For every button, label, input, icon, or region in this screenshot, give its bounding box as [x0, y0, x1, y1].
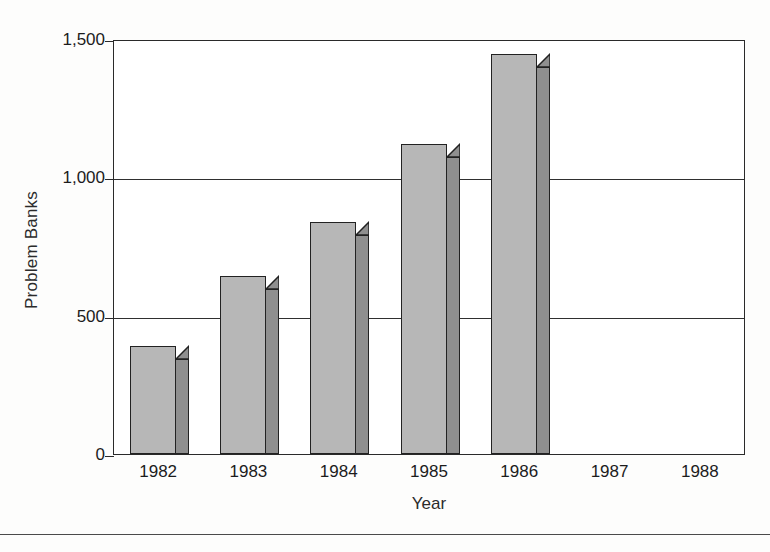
bar-side-face-1983: [266, 289, 279, 454]
bar-1985: [401, 144, 460, 454]
bar-top-face-1983: [266, 275, 279, 290]
bar-top-face-1985: [447, 143, 460, 158]
x-axis-title: Year: [113, 494, 745, 514]
x-tick-label-1986: 1986: [500, 462, 538, 482]
bar-1983: [220, 276, 279, 454]
y-axis-tick-labels: 0 500 1,000 1,500: [33, 0, 105, 552]
x-axis-tick-labels: 1982198319841985198619871988: [113, 462, 745, 488]
y-tickmark-1500: [105, 41, 114, 42]
x-tick-label-1983: 1983: [230, 462, 268, 482]
bar-1984: [310, 222, 369, 454]
bar-front-face-1986: [491, 54, 537, 454]
bar-side-face-1986: [537, 67, 550, 454]
x-tick-label-1987: 1987: [591, 462, 629, 482]
x-tick-label-1985: 1985: [410, 462, 448, 482]
bar-top-face-1986: [537, 53, 550, 68]
bar-front-face-1982: [130, 346, 176, 454]
x-tick-label-1984: 1984: [320, 462, 358, 482]
footer-rule: [0, 534, 770, 535]
bar-front-face-1983: [220, 276, 266, 454]
bar-front-face-1984: [310, 222, 356, 454]
y-tickmark-500: [105, 318, 114, 319]
y-tick-label-1000: 1,000: [33, 168, 105, 188]
x-tick-label-1988: 1988: [681, 462, 719, 482]
x-tick-label-1982: 1982: [139, 462, 177, 482]
bar-1986: [491, 54, 550, 454]
bar-1982: [130, 346, 189, 454]
plot-area: [113, 40, 745, 455]
y-tick-label-1500: 1,500: [33, 30, 105, 50]
bar-top-face-1982: [176, 345, 189, 360]
bar-side-face-1984: [356, 235, 369, 454]
y-tickmark-0: [105, 456, 114, 457]
bar-series: [114, 41, 744, 454]
bar-front-face-1985: [401, 144, 447, 454]
y-tick-label-0: 0: [33, 445, 105, 465]
bar-side-face-1985: [447, 157, 460, 454]
bar-top-face-1984: [356, 221, 369, 236]
bar-side-face-1982: [176, 359, 189, 454]
y-tickmark-1000: [105, 179, 114, 180]
bar-chart-figure: Problem Banks 0 500 1,000 1,500 19821983…: [0, 0, 770, 552]
y-tick-label-500: 500: [33, 307, 105, 327]
